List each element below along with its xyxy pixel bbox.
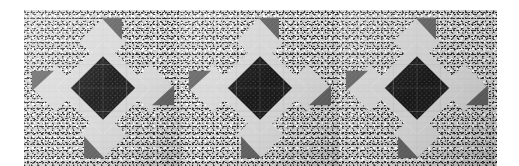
block-sheen xyxy=(181,10,339,166)
star-block-1 xyxy=(24,10,182,166)
star-block-1-art xyxy=(24,10,182,166)
star-block-2 xyxy=(181,10,339,166)
page-root xyxy=(0,0,519,166)
star-block-3 xyxy=(338,10,496,166)
quilt-runner-photo xyxy=(24,10,497,166)
star-block-3-art xyxy=(338,10,496,166)
star-block-2-art xyxy=(181,10,339,166)
block-sheen xyxy=(338,10,496,166)
block-sheen xyxy=(24,10,182,166)
